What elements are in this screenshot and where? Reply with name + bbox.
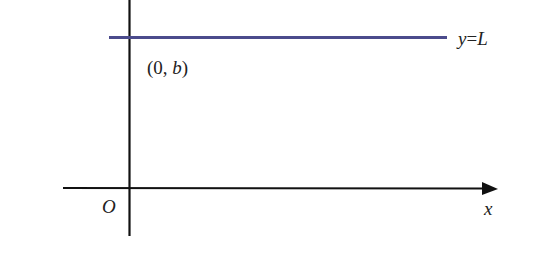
point-label: (0, b) — [147, 57, 188, 79]
line-equation-label: y=L — [456, 28, 488, 49]
x-axis — [63, 188, 484, 189]
graph-canvas: (0, b) y=L O x — [0, 0, 536, 264]
x-axis-label: x — [483, 198, 493, 219]
origin-label: O — [102, 196, 116, 217]
x-axis-arrowhead — [482, 182, 498, 195]
